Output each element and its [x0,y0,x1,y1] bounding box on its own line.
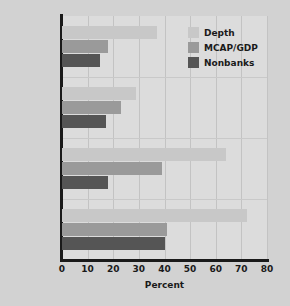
bar-africa-mcapgdp [62,40,108,53]
bar-latin-america-nonbanks [62,115,106,128]
gridline-horizontal [62,77,267,78]
legend-label: MCAP/GDP [204,43,258,53]
x-tick-60: 60 [206,264,226,274]
bar-asia-mcapgdp [62,162,162,175]
bar-africa-nonbanks [62,54,100,67]
x-tick-80: 80 [257,264,277,274]
bar-latin-america-mcapgdp [62,101,121,114]
x-tick-70: 70 [231,264,251,274]
legend-swatch-icon [188,27,199,38]
legend-swatch-icon [188,42,199,53]
x-axis-title: Percent [62,280,267,290]
x-tick-40: 40 [155,264,175,274]
x-tick-10: 10 [78,264,98,274]
bar-industrial-nonbanks [62,237,165,250]
legend-item-nonbanks[interactable]: Nonbanks [188,56,258,69]
legend-swatch-icon [188,57,199,68]
x-axis-line [60,259,269,262]
gridline-vertical [267,16,268,260]
gridline-horizontal [62,138,267,139]
legend-item-depth[interactable]: Depth [188,26,258,39]
x-tick-50: 50 [180,264,200,274]
x-tick-30: 30 [129,264,149,274]
legend-item-mcapgdp[interactable]: MCAP/GDP [188,41,258,54]
bar-chart-figure: AfricaLatin AmericaAsiaIndustrial 010203… [0,0,290,306]
bar-asia-depth [62,148,226,161]
bar-latin-america-depth [62,87,136,100]
bar-asia-nonbanks [62,176,108,189]
legend-label: Nonbanks [204,58,254,68]
chart-legend: DepthMCAP/GDPNonbanks [188,26,258,71]
bar-africa-depth [62,26,157,39]
bar-industrial-depth [62,209,247,222]
legend-label: Depth [204,28,235,38]
x-tick-20: 20 [103,264,123,274]
x-tick-0: 0 [52,264,72,274]
bar-industrial-mcapgdp [62,223,167,236]
gridline-horizontal [62,199,267,200]
